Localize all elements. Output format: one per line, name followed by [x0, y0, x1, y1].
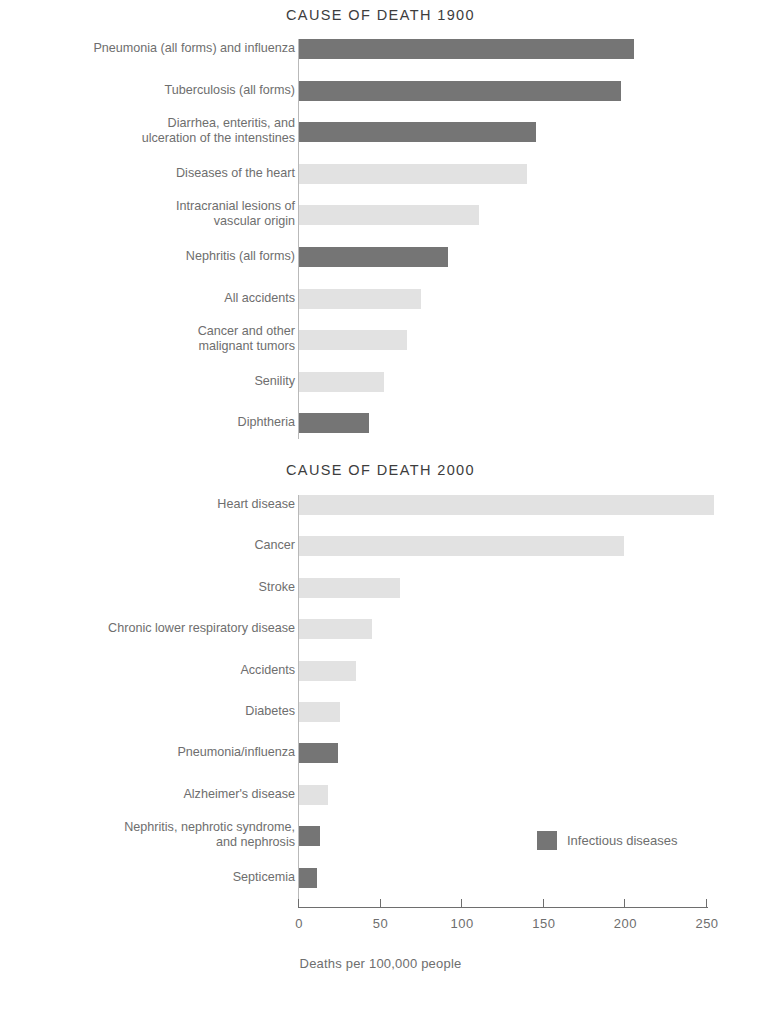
bar-category-label: Cancer: [5, 538, 295, 553]
bar-category-label: Diabetes: [5, 704, 295, 719]
bar-category-label: Diphtheria: [5, 415, 295, 430]
bar-row: Nephritis (all forms): [0, 247, 761, 267]
bar: [299, 372, 384, 392]
bar-row: Diseases of the heart: [0, 164, 761, 184]
bar: [299, 39, 634, 59]
bar-row: Senility: [0, 372, 761, 392]
bar-category-label: Chronic lower respiratory disease: [5, 621, 295, 636]
bar-row: Stroke: [0, 578, 761, 598]
bar-category-label: Stroke: [5, 580, 295, 595]
legend: Infectious diseases: [537, 831, 678, 850]
bar: [299, 413, 369, 433]
bar-category-label: Nephritis (all forms): [5, 249, 295, 264]
bar-row: Septicemia: [0, 868, 761, 888]
bar: [299, 495, 714, 515]
bar-category-label: Intracranial lesions of vascular origin: [5, 199, 295, 229]
bar-chart-1900: Pneumonia (all forms) and influenzaTuber…: [0, 30, 761, 440]
x-axis-tick-label: 50: [373, 916, 388, 931]
bar-row: Alzheimer's disease: [0, 785, 761, 805]
bar-category-label: Tuberculosis (all forms): [5, 83, 295, 98]
bar: [299, 826, 320, 846]
bar-category-label: Diseases of the heart: [5, 166, 295, 181]
bar: [299, 81, 621, 101]
x-axis-tick: [543, 899, 544, 907]
x-axis-line: [298, 907, 708, 908]
bar-row: Intracranial lesions of vascular origin: [0, 205, 761, 225]
x-axis-tick-label: 150: [532, 916, 555, 931]
bar-category-label: Accidents: [5, 663, 295, 678]
bar-row: Pneumonia (all forms) and influenza: [0, 39, 761, 59]
x-axis-tick: [298, 899, 299, 907]
bar-row: Accidents: [0, 661, 761, 681]
bar: [299, 205, 479, 225]
legend-swatch-infectious: [537, 831, 557, 850]
bar-category-label: Alzheimer's disease: [5, 787, 295, 802]
bar: [299, 702, 340, 722]
x-axis-tick: [380, 899, 381, 907]
bar-category-label: Diarrhea, enteritis, and ulceration of t…: [5, 116, 295, 146]
bar-category-label: Septicemia: [5, 870, 295, 885]
bar-category-label: Pneumonia/influenza: [5, 745, 295, 760]
bar-row: Cancer: [0, 536, 761, 556]
legend-label-infectious: Infectious diseases: [567, 833, 678, 848]
cause-of-death-figure: CAUSE OF DEATH 1900 Pneumonia (all forms…: [0, 0, 761, 1012]
x-axis-tick-label: 0: [295, 916, 303, 931]
x-axis-tick: [624, 899, 625, 907]
bar-row: Cancer and other malignant tumors: [0, 330, 761, 350]
bar: [299, 247, 448, 267]
bar: [299, 661, 356, 681]
bar-category-label: All accidents: [5, 291, 295, 306]
bar-category-label: Senility: [5, 374, 295, 389]
bar-row: Heart disease: [0, 495, 761, 515]
bar-category-label: Heart disease: [5, 497, 295, 512]
bar-category-label: Pneumonia (all forms) and influenza: [5, 41, 295, 56]
bar-category-label: Cancer and other malignant tumors: [5, 324, 295, 354]
bar: [299, 578, 400, 598]
bar-row: Diarrhea, enteritis, and ulceration of t…: [0, 122, 761, 142]
bar: [299, 122, 536, 142]
bar-row: All accidents: [0, 289, 761, 309]
x-axis-tick: [706, 899, 707, 907]
x-axis-tick-label: 100: [451, 916, 474, 931]
chart-title-2000: CAUSE OF DEATH 2000: [0, 462, 761, 478]
x-axis-tick-label: 250: [695, 916, 718, 931]
bar-row: Diphtheria: [0, 413, 761, 433]
x-axis-tick: [461, 899, 462, 907]
x-axis-tick-label: 200: [614, 916, 637, 931]
bar: [299, 536, 624, 556]
chart-title-1900: CAUSE OF DEATH 1900: [0, 7, 761, 23]
bar-row: Chronic lower respiratory disease: [0, 619, 761, 639]
bar: [299, 619, 372, 639]
bar: [299, 785, 328, 805]
x-axis-title: Deaths per 100,000 people: [0, 956, 761, 971]
bar-category-label: Nephritis, nephrotic syndrome, and nephr…: [5, 820, 295, 850]
bar-row: Diabetes: [0, 702, 761, 722]
bar: [299, 868, 317, 888]
bar: [299, 330, 407, 350]
bar: [299, 743, 338, 763]
bar-row: Pneumonia/influenza: [0, 743, 761, 763]
bar: [299, 289, 421, 309]
bar: [299, 164, 527, 184]
bar-row: Tuberculosis (all forms): [0, 81, 761, 101]
